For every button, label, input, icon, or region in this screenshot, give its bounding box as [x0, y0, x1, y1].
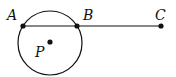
label-c: C: [155, 7, 166, 23]
label-b: B: [82, 7, 93, 23]
point-p: [47, 39, 52, 44]
point-b: [74, 23, 79, 28]
label-a: A: [5, 7, 17, 23]
point-a: [20, 23, 25, 28]
geometry-diagram: A B C P: [0, 0, 176, 77]
point-c: [158, 23, 163, 28]
label-p: P: [34, 44, 45, 60]
